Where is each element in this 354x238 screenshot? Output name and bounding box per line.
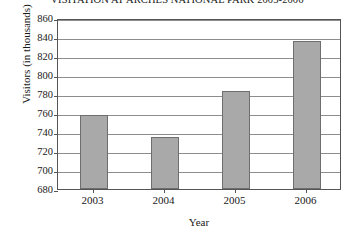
x-axis-tick-label-2003: 2003 [63,194,123,206]
bar-2004 [151,137,179,189]
y-axis-tick-label: 720 [37,147,53,158]
y-axis-tick [54,153,58,154]
x-axis-tick-labels: 2003200420052006 [57,194,341,210]
y-axis-tick [54,58,58,59]
x-axis-tick-label-2005: 2005 [205,194,265,206]
x-axis-tick [93,190,94,193]
y-axis-tick-label: 680 [37,185,53,196]
y-axis-tick-label: 780 [37,90,53,101]
y-axis-tick [54,39,58,40]
y-axis-tick [54,115,58,116]
gridline [58,20,340,21]
x-axis-title: Year [57,216,341,228]
bar-2006 [293,41,321,189]
x-axis-tick [235,190,236,193]
plot-area [57,19,341,190]
y-axis-tick [54,20,58,21]
bar-2005 [222,91,250,189]
y-axis-tick [54,77,58,78]
y-axis-tick [54,191,58,192]
chart-title: VISITATION AT ARCHES NATIONAL PARK 2003-… [0,0,354,5]
y-axis-tick [54,172,58,173]
y-axis-tick-label: 820 [37,52,53,63]
y-axis-tick-label: 700 [37,166,53,177]
x-axis-tick [164,190,165,193]
bar-2003 [80,115,108,189]
y-axis-tick-labels: 680700720740760780800820840860 [10,19,53,190]
y-axis-tick-label: 860 [37,14,53,25]
x-axis-tick-label-2006: 2006 [276,194,336,206]
y-axis-tick-label: 840 [37,33,53,44]
bar-chart: VISITATION AT ARCHES NATIONAL PARK 2003-… [0,0,354,238]
y-axis-tick-label: 740 [37,128,53,139]
x-axis-tick-label-2004: 2004 [134,194,194,206]
y-axis-tick-label: 760 [37,109,53,120]
y-axis-tick [54,134,58,135]
y-axis-tick [54,96,58,97]
y-axis-tick-label: 800 [37,71,53,82]
x-axis-tick [306,190,307,193]
